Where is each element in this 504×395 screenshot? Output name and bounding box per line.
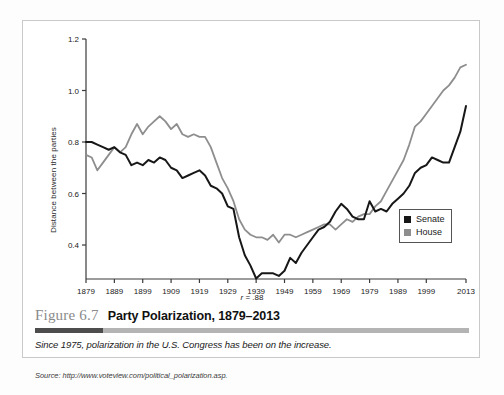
caption-subtitle: Since 1975, polarization in the U.S. Con… — [35, 339, 469, 350]
source-line: Source: http://www.voteview.com/politica… — [35, 371, 228, 380]
chart-svg: 0.40.60.81.01.21879188918991909191919291… — [23, 21, 481, 309]
chart-series — [86, 65, 466, 279]
chart-axes: 0.40.60.81.01.21879188918991909191919291… — [68, 35, 476, 296]
chart-legend: Senate House — [399, 209, 452, 243]
y-tick-label: 1.0 — [68, 87, 80, 96]
chart-plot-area: Distance between the parties 0.40.60.81.… — [23, 21, 481, 309]
series-line-senate — [86, 106, 466, 279]
figure-container: Distance between the parties 0.40.60.81.… — [22, 20, 480, 358]
caption-divider-rule — [35, 328, 469, 333]
correlation-annotation: r = .88 — [23, 293, 481, 302]
y-tick-label: 0.6 — [68, 190, 80, 199]
legend-label-senate: Senate — [416, 213, 445, 226]
legend-item-house[interactable]: House — [404, 226, 445, 239]
figure-page: Distance between the parties 0.40.60.81.… — [0, 0, 504, 395]
y-tick-label: 0.4 — [68, 241, 80, 250]
house-swatch-icon — [404, 229, 411, 236]
correlation-value: = .88 — [245, 293, 263, 302]
caption-title-line: Figure 6.7 Party Polarization, 1879–2013 — [23, 307, 481, 324]
senate-swatch-icon — [404, 216, 411, 223]
legend-item-senate[interactable]: Senate — [404, 213, 445, 226]
y-tick-label: 1.2 — [68, 35, 80, 44]
correlation-symbol: r — [241, 293, 244, 302]
page-title: Party Polarization, 1879–2013 — [108, 309, 280, 323]
figure-caption-block: Figure 6.7 Party Polarization, 1879–2013… — [23, 307, 481, 350]
y-tick-label: 0.8 — [68, 138, 80, 147]
legend-label-house: House — [416, 226, 442, 239]
figure-number: Figure 6.7 — [35, 307, 99, 324]
